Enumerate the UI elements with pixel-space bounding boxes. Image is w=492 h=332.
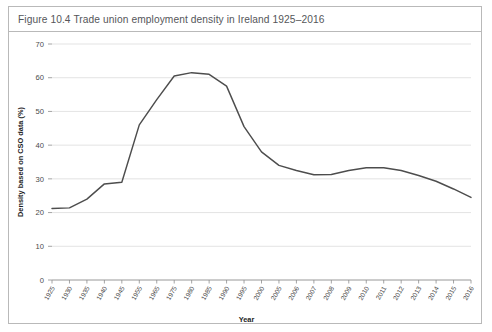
x-tick-label: 1945 bbox=[112, 285, 126, 301]
x-tick-label: 2014 bbox=[427, 285, 441, 301]
density-line-series bbox=[52, 73, 471, 209]
y-tick-label: 60 bbox=[36, 73, 44, 82]
x-tick-label: 1930 bbox=[60, 285, 74, 301]
figure-title: Figure 10.4 Trade union employment densi… bbox=[9, 14, 324, 25]
y-tick-label: 50 bbox=[36, 107, 44, 116]
x-tick-label: 2005 bbox=[269, 285, 283, 301]
x-tick-label: 2013 bbox=[409, 285, 423, 301]
y-tick-label: 0 bbox=[40, 276, 44, 285]
x-tick-label: 2016 bbox=[461, 285, 475, 301]
figure-title-bar: Figure 10.4 Trade union employment densi… bbox=[9, 7, 481, 32]
x-tick-label: 1995 bbox=[235, 285, 249, 301]
x-tick-label: 1980 bbox=[182, 285, 196, 301]
y-tick-label: 40 bbox=[36, 141, 44, 150]
y-axis-title: Density based on CSO data (%) bbox=[16, 106, 25, 217]
figure-container: Figure 10.4 Trade union employment densi… bbox=[8, 6, 482, 324]
y-axis-ticks bbox=[48, 44, 52, 280]
gridlines bbox=[52, 44, 471, 246]
x-tick-label: 2007 bbox=[304, 285, 318, 301]
line-chart-svg: 010203040506070 192519301935194019451955… bbox=[9, 32, 483, 324]
x-tick-label: 1940 bbox=[95, 285, 109, 301]
y-tick-label: 10 bbox=[36, 242, 44, 251]
x-tick-label: 2000 bbox=[252, 285, 266, 301]
x-tick-label: 2015 bbox=[444, 285, 458, 301]
x-tick-label: 1965 bbox=[147, 285, 161, 301]
y-tick-label: 30 bbox=[36, 175, 44, 184]
x-tick-label: 2009 bbox=[339, 285, 353, 301]
x-tick-label: 2006 bbox=[287, 285, 301, 301]
x-tick-label: 2011 bbox=[374, 285, 387, 301]
y-tick-label: 20 bbox=[36, 208, 44, 217]
x-tick-label: 1990 bbox=[217, 285, 231, 301]
x-tick-label: 1925 bbox=[42, 285, 56, 301]
chart-plot-area: 010203040506070 192519301935194019451955… bbox=[9, 32, 483, 324]
y-tick-label: 70 bbox=[36, 40, 44, 49]
x-tick-label: 2012 bbox=[392, 285, 406, 301]
x-tick-label: 1955 bbox=[130, 285, 144, 301]
y-axis-tick-labels: 010203040506070 bbox=[36, 40, 44, 285]
x-tick-label: 2008 bbox=[322, 285, 336, 301]
x-tick-label: 1985 bbox=[200, 285, 214, 301]
x-axis-title: Year bbox=[239, 315, 255, 324]
x-tick-label: 1935 bbox=[77, 285, 91, 301]
x-tick-label: 1975 bbox=[165, 285, 179, 301]
x-axis-tick-labels: 1925193019351940194519551965197519801985… bbox=[42, 285, 475, 301]
x-tick-label: 2010 bbox=[357, 285, 371, 301]
x-axis-ticks bbox=[52, 280, 471, 284]
